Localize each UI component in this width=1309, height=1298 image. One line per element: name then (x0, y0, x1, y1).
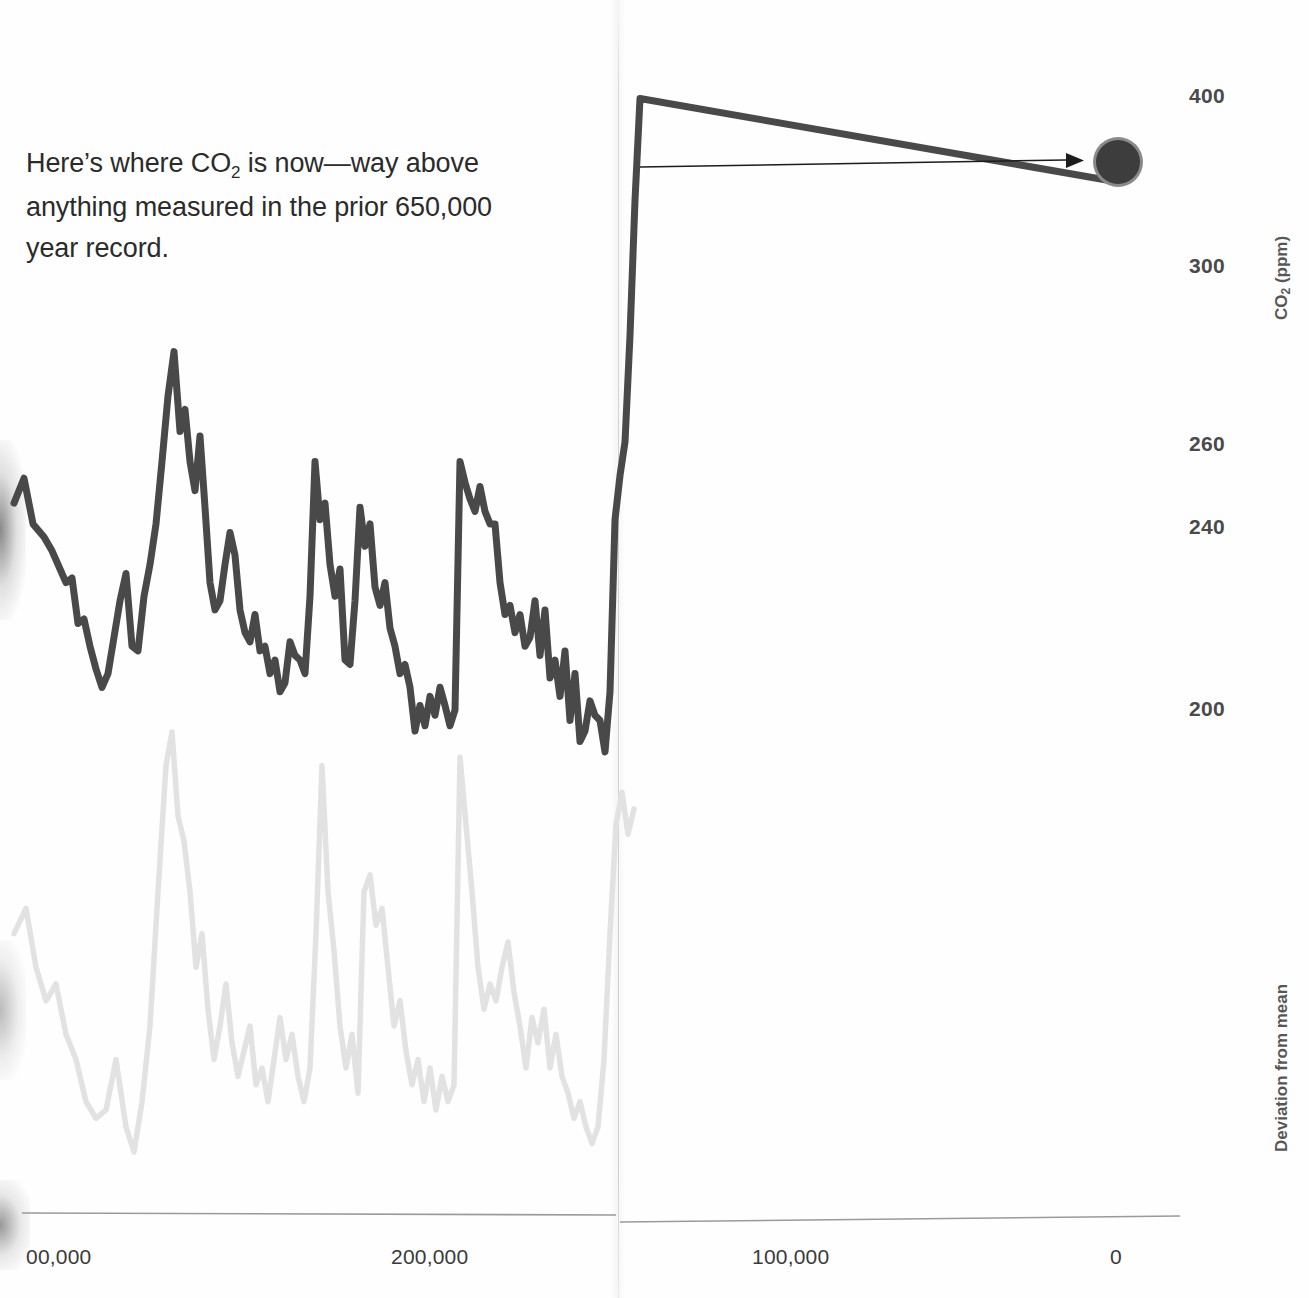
y-tick-300: 300 (1189, 254, 1225, 278)
y-tick-200: 200 (1189, 697, 1225, 721)
x-tick-100000: 100,000 (752, 1245, 829, 1269)
x-axis-line-right (620, 1216, 1180, 1222)
co2-concentration-line (14, 99, 1118, 753)
y-tick-400: 400 (1189, 84, 1225, 108)
x-axis-line-left (22, 1213, 616, 1215)
y-tick-240: 240 (1189, 515, 1225, 539)
y-axis-title-subscript: 2 (1279, 288, 1293, 295)
x-tick-0: 0 (1110, 1245, 1122, 1269)
plot-svg (0, 0, 1309, 1298)
y-axis-title-deviation: Deviation from mean (1272, 984, 1292, 1152)
modern-co2-marker (1093, 137, 1143, 187)
y-axis-title-pre: CO (1272, 295, 1291, 321)
x-tick-200000: 200,000 (391, 1245, 468, 1269)
chart-figure: Here’s where CO2 is now—way above anythi… (0, 0, 1309, 1298)
y-axis-title-co2: CO2 (ppm) (1272, 236, 1292, 320)
y-tick-260: 260 (1189, 432, 1225, 456)
x-tick-00000: 00,000 (26, 1245, 91, 1269)
y-axis-title-post: (ppm) (1272, 236, 1291, 288)
temperature-deviation-line (14, 732, 634, 1152)
